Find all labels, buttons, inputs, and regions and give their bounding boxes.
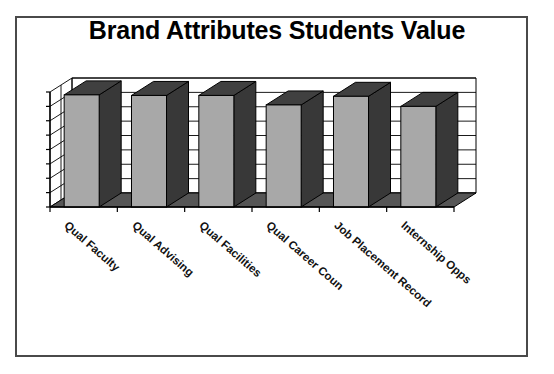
bar-column [401,92,458,207]
bar-column [199,81,256,207]
chart-title: Brand Attributes Students Value [0,16,554,45]
bar-column [333,82,390,207]
bar-column [64,81,121,207]
plot-area [44,76,504,221]
bar-column [266,91,323,207]
bar-chart-3d [44,76,514,226]
bar-column [131,81,188,207]
